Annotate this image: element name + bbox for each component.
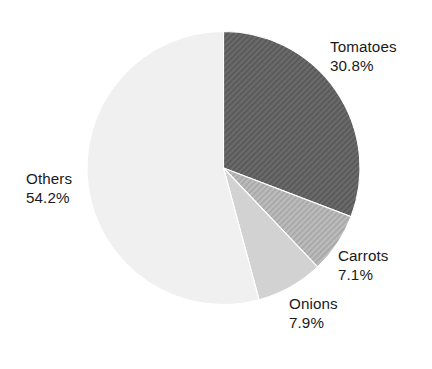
slice-label-others-value: 54.2% xyxy=(26,189,72,208)
slice-label-tomatoes-name: Tomatoes xyxy=(330,38,397,57)
slice-label-carrots-value: 7.1% xyxy=(338,266,389,285)
slice-label-tomatoes-value: 30.8% xyxy=(330,57,397,76)
slice-label-carrots-name: Carrots xyxy=(338,247,389,266)
slice-label-onions: Onions 7.9% xyxy=(289,295,338,332)
pie-chart: Tomatoes 30.8% Carrots 7.1% Onions 7.9% … xyxy=(0,0,432,369)
slice-label-others-name: Others xyxy=(26,170,72,189)
pie-slices-group xyxy=(87,32,360,305)
slice-label-onions-value: 7.9% xyxy=(289,314,338,333)
slice-label-others: Others 54.2% xyxy=(26,170,72,207)
slice-label-tomatoes: Tomatoes 30.8% xyxy=(330,38,397,75)
slice-label-onions-name: Onions xyxy=(289,295,338,314)
slice-label-carrots: Carrots 7.1% xyxy=(338,247,389,284)
